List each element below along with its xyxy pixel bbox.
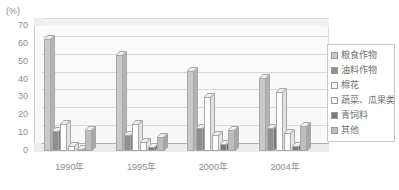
bar-2000年-其他 xyxy=(228,130,235,151)
bar-face xyxy=(157,137,164,151)
legend-item-蔬菜、瓜果类[interactable]: 蔬菜、瓜果类 xyxy=(331,93,391,108)
y-axis-tick-40: 40 xyxy=(4,75,28,84)
bar-1995年-其他 xyxy=(157,137,164,151)
bar-2000年-棉花 xyxy=(204,97,211,151)
bar-2004年-青饲料 xyxy=(292,146,299,151)
bar-2004年-油料作物 xyxy=(267,128,274,151)
x-axis-tick-1995年: 1995年 xyxy=(106,160,178,173)
bar-1995年-油料作物 xyxy=(124,135,131,151)
bar-face xyxy=(284,133,291,151)
y-axis-tick-10: 10 xyxy=(4,128,28,137)
legend-item-粮食作物[interactable]: 粮食作物 xyxy=(331,48,391,63)
legend-swatch-icon xyxy=(331,67,338,74)
bar-2000年-粮食作物 xyxy=(187,71,194,151)
y-axis-tick-60: 60 xyxy=(4,39,28,48)
bar-1990年-蔬菜、瓜果类 xyxy=(68,146,75,151)
gridline-70 xyxy=(42,18,329,19)
chart-container: (%) 706050403020100 1990年1995年2000年2004年… xyxy=(0,0,399,190)
gridline-60 xyxy=(42,36,329,37)
legend-item-青饲料[interactable]: 青饲料 xyxy=(331,108,391,123)
bar-face xyxy=(132,124,139,151)
legend-item-棉花[interactable]: 棉花 xyxy=(331,78,391,93)
bar-face xyxy=(292,146,299,151)
legend-swatch-icon xyxy=(331,82,338,89)
x-axis-tick-2004年: 2004年 xyxy=(249,160,321,173)
bar-1990年-其他 xyxy=(85,130,92,151)
y-axis-tick-30: 30 xyxy=(4,92,28,101)
legend-label: 棉花 xyxy=(341,81,359,90)
x-axis-tick-2000年: 2000年 xyxy=(178,160,250,173)
bar-face xyxy=(85,130,92,151)
y-axis-tick-70: 70 xyxy=(4,21,28,30)
legend-swatch-icon xyxy=(331,112,338,119)
bar-2004年-蔬菜、瓜果类 xyxy=(284,133,291,151)
bar-2000年-青饲料 xyxy=(220,144,227,151)
bar-2004年-棉花 xyxy=(276,92,283,151)
y-axis-tick-50: 50 xyxy=(4,57,28,66)
bar-1995年-粮食作物 xyxy=(116,55,123,151)
bar-1995年-棉花 xyxy=(132,124,139,151)
bar-1995年-蔬菜、瓜果类 xyxy=(140,142,147,151)
bar-2000年-油料作物 xyxy=(196,128,203,151)
bar-face xyxy=(52,131,59,151)
bar-face xyxy=(124,135,131,151)
legend-label: 蔬菜、瓜果类 xyxy=(341,96,395,105)
bar-face xyxy=(196,128,203,151)
legend-label: 油料作物 xyxy=(341,66,377,75)
bar-1995年-青饲料 xyxy=(148,147,155,151)
bar-2004年-其他 xyxy=(300,126,307,151)
gridline-40 xyxy=(42,72,329,73)
legend-label: 其他 xyxy=(341,126,359,135)
y-axis-tick-0: 0 xyxy=(4,146,28,155)
x-axis-tick-1990年: 1990年 xyxy=(34,160,106,173)
bar-side xyxy=(235,126,239,151)
legend-item-其他[interactable]: 其他 xyxy=(331,123,391,138)
bar-face xyxy=(204,97,211,151)
legend-swatch-icon xyxy=(331,97,338,104)
bar-1990年-油料作物 xyxy=(52,131,59,151)
bar-face xyxy=(276,92,283,151)
bar-1990年-棉花 xyxy=(60,124,67,151)
legend-label: 粮食作物 xyxy=(341,51,377,60)
legend-swatch-icon xyxy=(331,127,338,134)
bar-face xyxy=(212,135,219,151)
bar-face xyxy=(44,39,51,152)
legend-label: 青饲料 xyxy=(341,111,368,120)
chart-legend: 粮食作物油料作物棉花蔬菜、瓜果类青饲料其他 xyxy=(327,44,395,142)
bar-face xyxy=(77,149,84,151)
bar-side xyxy=(307,122,311,151)
bar-face xyxy=(116,55,123,151)
y-axis-tick-20: 20 xyxy=(4,110,28,119)
bar-2004年-粮食作物 xyxy=(259,78,266,151)
legend-item-油料作物[interactable]: 油料作物 xyxy=(331,63,391,78)
legend-swatch-icon xyxy=(331,52,338,59)
bar-1990年-青饲料 xyxy=(77,149,84,151)
y-axis-unit-label: (%) xyxy=(6,6,20,16)
bar-2000年-蔬菜、瓜果类 xyxy=(212,135,219,151)
bar-1990年-粮食作物 xyxy=(44,39,51,152)
gridline-50 xyxy=(42,54,329,55)
